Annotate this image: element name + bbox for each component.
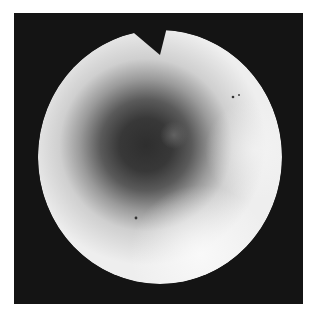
speck	[232, 96, 235, 99]
endoscopic-view	[0, 0, 317, 316]
speck	[135, 217, 138, 220]
speck	[238, 94, 240, 96]
